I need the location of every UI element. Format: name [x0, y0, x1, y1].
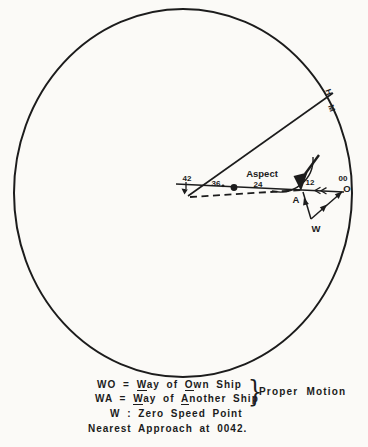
time-label-42: 42 [183, 174, 192, 183]
point-label-a: A [293, 194, 300, 205]
plot-circle [14, 9, 352, 377]
vector-wa-arrow-icon [303, 198, 309, 206]
point-label-w: W [312, 223, 321, 234]
time-label-36: 36 [212, 179, 221, 188]
time-label-24: 24 [254, 180, 263, 189]
scanned-figure-page: H M 42 36 24 Aspect 12 [0, 0, 368, 447]
vector-wa [303, 192, 311, 219]
plot-dot-small [222, 184, 225, 187]
time-label-00: 00 [339, 174, 348, 183]
aspect-arc [272, 157, 313, 192]
ship-heading-stroke [305, 155, 319, 174]
legend-line: W : Zero Speed Point [110, 407, 358, 421]
point-label-o: O [343, 183, 350, 194]
cpa-arrow-icon [182, 189, 188, 195]
time-label-12: 12 [306, 178, 315, 187]
legend-line: Nearest Approach at 0042. [88, 422, 358, 436]
proper-motion-label: Proper Motion [259, 386, 346, 397]
aspect-label: Aspect [246, 168, 279, 179]
bearing-dashed-line [190, 190, 302, 197]
plot-dot-large [231, 184, 238, 191]
